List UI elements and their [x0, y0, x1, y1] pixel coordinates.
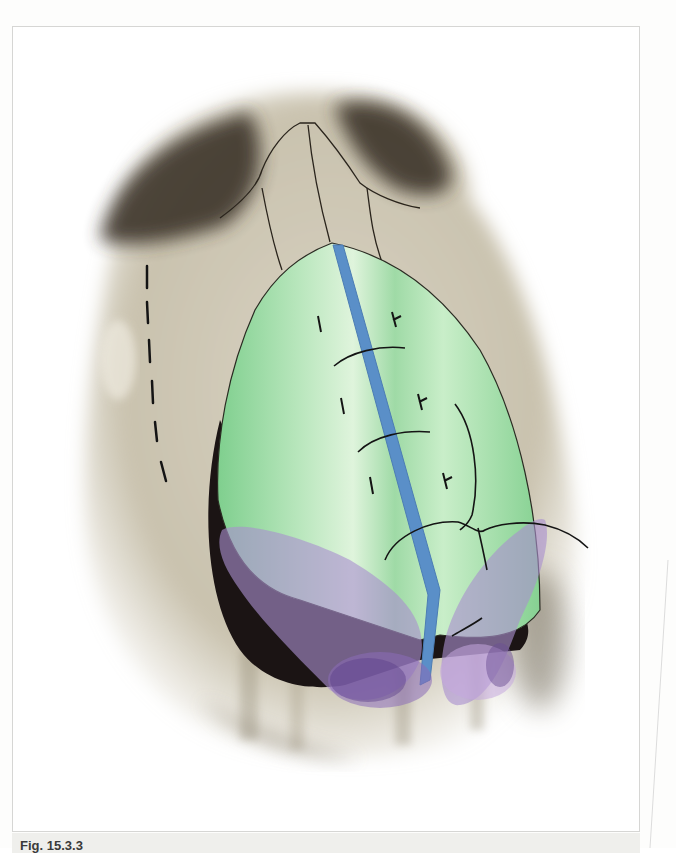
figure-caption: Fig. 15.3.3: [20, 838, 83, 853]
caption-band: Fig. 15.3.3: [12, 833, 640, 853]
